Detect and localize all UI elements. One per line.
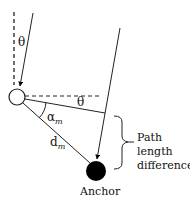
theta-top-label: θ: [18, 35, 25, 49]
wavefront-line: [25, 99, 105, 113]
incoming-ray-left: [20, 13, 33, 86]
path-length-brace: [114, 116, 128, 169]
distance-subscript: m: [58, 142, 66, 151]
brace-label-line1: Path: [137, 131, 162, 144]
alpha-subscript: m: [55, 117, 63, 126]
brace-label-line2: length: [137, 145, 173, 158]
alpha-arc: [39, 102, 46, 118]
brace-label-line3: difference: [137, 159, 190, 172]
node-circle: [9, 89, 25, 105]
incoming-ray-anchor: [97, 28, 120, 159]
distance-label: dm: [50, 135, 66, 151]
alpha-symbol: α: [47, 110, 55, 124]
alpha-label: αm: [47, 110, 63, 126]
path-length-diagram: θ θ αm dm Anchor Path length difference: [0, 0, 190, 201]
theta-mid-label: θ: [77, 95, 84, 109]
anchor-circle: [86, 161, 106, 181]
distance-line: [23, 103, 90, 163]
anchor-label: Anchor: [79, 185, 121, 198]
